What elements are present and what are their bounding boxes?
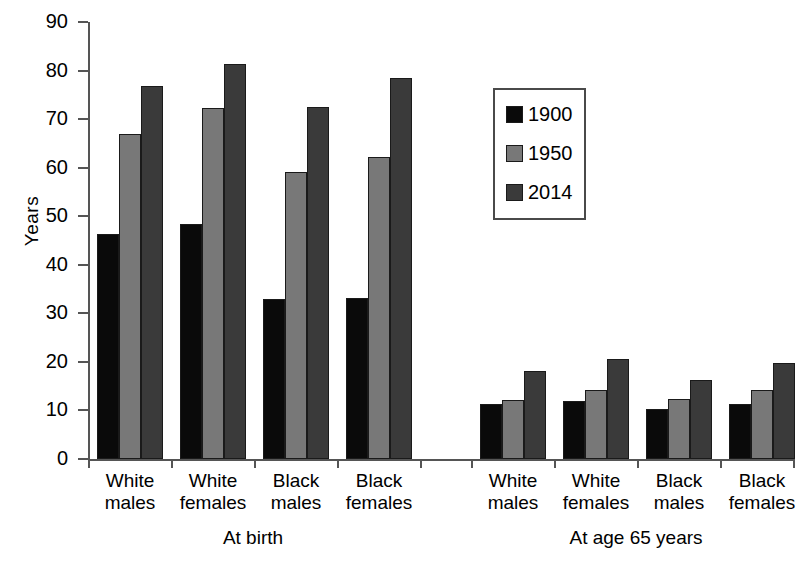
x-axis-tick — [471, 459, 473, 468]
y-axis-tick — [78, 70, 88, 72]
x-axis-tick — [254, 459, 256, 468]
bar — [524, 371, 546, 459]
bar — [773, 363, 795, 459]
y-axis-tick — [78, 312, 88, 314]
bar — [346, 298, 368, 459]
bar — [285, 172, 307, 459]
x-axis-tick — [171, 459, 173, 468]
legend-item-label: 1900 — [528, 104, 573, 124]
bar — [390, 78, 412, 459]
y-axis-tick-label: 80 — [8, 60, 68, 80]
bar — [751, 390, 773, 459]
y-axis-tick — [78, 409, 88, 411]
x-axis-category-label: Blackfemales — [702, 470, 798, 514]
bar — [585, 390, 607, 459]
bar — [368, 157, 390, 459]
legend-item[interactable]: 2014 — [506, 182, 573, 202]
legend-item[interactable]: 1950 — [506, 143, 573, 163]
bar — [690, 380, 712, 459]
y-axis-tick-label: 50 — [8, 205, 68, 225]
x-axis-line — [88, 459, 794, 461]
y-axis-tick-label: 40 — [8, 254, 68, 274]
y-axis-tick — [78, 215, 88, 217]
y-axis-tick-label: 20 — [8, 351, 68, 371]
bar — [97, 234, 119, 459]
y-axis-tick — [78, 361, 88, 363]
panel-title: At age 65 years — [526, 527, 746, 549]
bar — [607, 359, 629, 459]
bar — [202, 108, 224, 459]
bar — [119, 134, 141, 459]
y-axis-tick — [78, 264, 88, 266]
legend-swatch-icon — [506, 106, 523, 123]
bar — [502, 400, 524, 459]
bar — [563, 401, 585, 459]
x-axis-tick — [420, 459, 422, 468]
x-axis-tick — [554, 459, 556, 468]
chart-canvas: Years 9080706050403020100 WhitemalesWhit… — [0, 0, 798, 576]
y-axis-tick-label: 70 — [8, 108, 68, 128]
bar — [729, 404, 751, 459]
y-axis-tick-label: 30 — [8, 302, 68, 322]
legend-box: 190019502014 — [493, 88, 586, 220]
legend-item-label: 1950 — [528, 143, 573, 163]
y-axis-tick-label: 60 — [8, 157, 68, 177]
y-axis-tick-label: 90 — [8, 11, 68, 31]
bar — [480, 404, 502, 459]
x-axis-tick — [720, 459, 722, 468]
x-axis-tick — [337, 459, 339, 468]
bar — [263, 299, 285, 459]
bar — [180, 224, 202, 459]
legend-swatch-icon — [506, 145, 523, 162]
bar — [668, 399, 690, 459]
y-axis-tick — [78, 118, 88, 120]
legend-item[interactable]: 1900 — [506, 104, 573, 124]
y-axis-tick — [78, 167, 88, 169]
legend-swatch-icon — [506, 184, 523, 201]
y-axis-tick — [78, 458, 88, 460]
y-axis-tick-label: 10 — [8, 399, 68, 419]
y-axis-line — [88, 22, 90, 460]
x-axis-category-label: Blackfemales — [319, 470, 439, 514]
bar — [646, 409, 668, 459]
x-axis-tick — [637, 459, 639, 468]
bar — [307, 107, 329, 459]
legend-item-label: 2014 — [528, 182, 573, 202]
y-axis-tick-label: 0 — [8, 448, 68, 468]
x-axis-tick — [793, 459, 795, 468]
bar — [141, 86, 163, 459]
y-axis-tick — [78, 21, 88, 23]
panel-title: At birth — [143, 527, 363, 549]
x-axis-tick — [88, 459, 90, 468]
bar — [224, 64, 246, 459]
